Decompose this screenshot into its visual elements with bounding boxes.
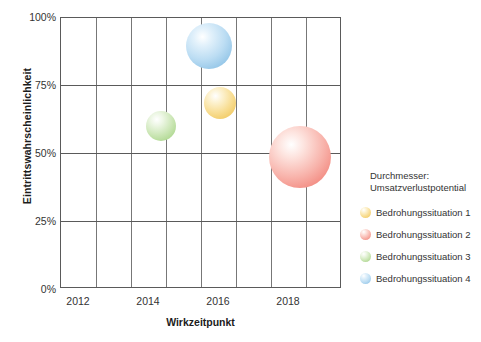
y-tick-0: 0% xyxy=(4,284,56,294)
legend-item-bedrohungssituation-3[interactable]: Bedrohungssituation 3 xyxy=(360,245,481,267)
legend-swatch-icon xyxy=(360,229,371,240)
legend-swatch-icon xyxy=(360,207,371,218)
legend-swatch-icon xyxy=(360,273,371,284)
legend: Durchmesser: Umsatzverlustpotential Bedr… xyxy=(360,170,481,289)
legend-title-line2: Umsatzverlustpotential xyxy=(370,182,481,194)
legend-item-bedrohungssituation-4[interactable]: Bedrohungssituation 4 xyxy=(360,267,481,289)
y-tick-100: 100% xyxy=(4,12,56,22)
x-tick-2014: 2014 xyxy=(125,296,171,307)
gridline-horizontal xyxy=(61,221,340,222)
legend-item-label: Bedrohungssituation 1 xyxy=(376,207,471,218)
bubble-bedrohungssituation-3[interactable] xyxy=(146,111,176,141)
legend-swatch-icon xyxy=(360,251,371,262)
legend-item-bedrohungssituation-2[interactable]: Bedrohungssituation 2 xyxy=(360,223,481,245)
legend-title: Durchmesser: Umsatzverlustpotential xyxy=(370,170,481,193)
x-tick-2012: 2012 xyxy=(55,296,101,307)
x-tick-2018: 2018 xyxy=(265,296,311,307)
legend-title-line1: Durchmesser: xyxy=(370,170,481,182)
legend-item-label: Bedrohungssituation 3 xyxy=(376,251,471,262)
legend-item-label: Bedrohungssituation 2 xyxy=(376,229,471,240)
bubble-bedrohungssituation-4[interactable] xyxy=(186,23,232,69)
x-tick-2016: 2016 xyxy=(195,296,241,307)
x-axis-title: Wirkzeitpunkt xyxy=(60,316,341,328)
bubble-bedrohungssituation-2[interactable] xyxy=(269,126,331,188)
bubble-chart: 100% 75% 50% 25% 0% Eintrittswahrscheinl… xyxy=(0,0,481,342)
y-axis-title: Eintrittswahrscheinlichkeit xyxy=(21,46,33,226)
plot-area xyxy=(60,17,341,288)
bubble-bedrohungssituation-1[interactable] xyxy=(204,87,236,119)
legend-item-label: Bedrohungssituation 4 xyxy=(376,273,471,284)
gridline-horizontal xyxy=(61,85,340,86)
legend-item-bedrohungssituation-1[interactable]: Bedrohungssituation 1 xyxy=(360,201,481,223)
